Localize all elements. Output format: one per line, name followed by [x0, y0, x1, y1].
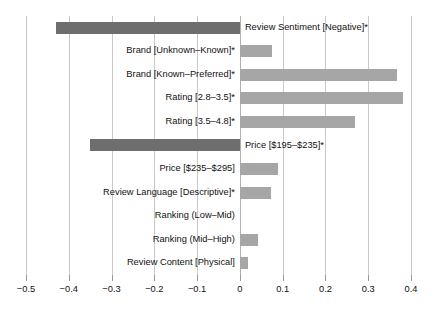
bar-row — [26, 134, 411, 158]
x-tick-mark — [112, 275, 113, 281]
category-label: Brand [Unknown–Known]* — [26, 46, 235, 55]
x-tick-label: −0.4 — [60, 285, 78, 294]
x-tick-mark — [154, 275, 155, 281]
category-label: Review Language [Descriptive]* — [26, 188, 235, 197]
plot-area: Review Sentiment [Negative]*Brand [Unkno… — [26, 16, 411, 275]
bar — [56, 22, 240, 34]
bar — [240, 163, 278, 175]
x-tick-label: 0.2 — [319, 285, 332, 294]
x-tick-mark — [283, 275, 284, 281]
x-tick-mark — [69, 275, 70, 281]
x-tick-label: −0.5 — [17, 285, 35, 294]
x-tick-mark — [26, 275, 27, 281]
bar — [240, 234, 258, 246]
bar — [240, 116, 355, 128]
x-tick-mark — [368, 275, 369, 281]
x-axis: −0.5−0.4−0.3−0.2−0.100.10.20.30.4 — [26, 275, 411, 315]
bar — [240, 92, 403, 104]
category-label: Review Sentiment [Negative]* — [245, 23, 368, 32]
x-tick-mark — [197, 275, 198, 281]
x-tick-label: 0.1 — [276, 285, 289, 294]
category-label: Rating [2.8–3.5]* — [26, 93, 235, 102]
x-tick-mark — [325, 275, 326, 281]
x-tick-label: 0.3 — [362, 285, 375, 294]
x-tick-mark — [411, 275, 412, 281]
x-tick-label: −0.1 — [188, 285, 206, 294]
category-label: Rating [3.5–4.8]* — [26, 117, 235, 126]
category-label: Ranking (Low–Mid) — [26, 211, 235, 220]
bar — [90, 139, 240, 151]
category-label: Ranking (Mid–High) — [26, 235, 235, 244]
x-tick-label: −0.2 — [145, 285, 163, 294]
x-tick-label: −0.3 — [102, 285, 120, 294]
x-tick-label: 0 — [237, 285, 242, 294]
category-label: Brand [Known–Preferred]* — [26, 70, 235, 79]
bar — [240, 69, 397, 81]
horizontal-bar-chart: Review Sentiment [Negative]*Brand [Unkno… — [0, 0, 434, 315]
category-label: Price [$195–$235]* — [245, 141, 324, 150]
gridline — [411, 16, 412, 275]
bar — [240, 187, 271, 199]
bar — [240, 45, 272, 57]
category-label: Review Content [Physical] — [26, 258, 235, 267]
x-tick-mark — [240, 275, 241, 281]
x-tick-label: 0.4 — [405, 285, 418, 294]
category-label: Price [$235–$295] — [26, 164, 235, 173]
bar — [240, 257, 248, 269]
